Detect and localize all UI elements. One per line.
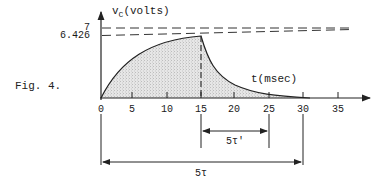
x-axis-label: t(msec) xyxy=(251,73,297,85)
tick-label-10: 10 xyxy=(161,104,173,115)
dimension-lines xyxy=(101,114,303,165)
rc-voltage-diagram: 0 5 10 15 20 25 30 35 7 6.426 vC(volts) … xyxy=(0,0,386,188)
tick-label-30: 30 xyxy=(297,104,309,115)
tick-label-15: 15 xyxy=(195,104,207,115)
level-peak-line xyxy=(102,30,352,36)
tick-label-25: 25 xyxy=(263,104,275,115)
tick-label-20: 20 xyxy=(228,104,240,115)
tick-label-35: 35 xyxy=(332,104,344,115)
dim-long-label: 5τ xyxy=(195,168,207,179)
tick-label-0: 0 xyxy=(98,104,104,115)
level-peak-label: 6.426 xyxy=(60,30,90,41)
dim-short-label: 5τ' xyxy=(226,136,244,147)
y-axis-label: vC(volts) xyxy=(112,5,170,19)
tick-label-5: 5 xyxy=(129,104,135,115)
